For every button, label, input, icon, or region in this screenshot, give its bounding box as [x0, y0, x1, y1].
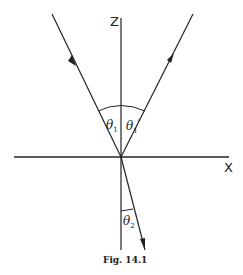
theta1-prime-label: θ1' [126, 118, 140, 135]
refracted-ray [121, 157, 145, 250]
figure-caption: Fig. 14.1 [103, 255, 147, 265]
theta1-prime-mark: ' [138, 118, 140, 126]
reflected-ray [121, 14, 193, 157]
theta2-subscript: 2 [130, 222, 134, 230]
angle-arc-theta2 [121, 209, 133, 211]
ray-diagram [0, 0, 243, 275]
theta2-label: θ2 [123, 214, 135, 230]
incident-ray [52, 14, 121, 157]
arrow-reflected-icon [167, 53, 174, 63]
theta1-subscript: 1 [113, 126, 117, 134]
arrow-refracted-icon [140, 238, 145, 250]
theta1-label: θ1 [106, 118, 118, 134]
theta1-prime-subscript: 1 [133, 127, 137, 135]
x-axis-label: X [224, 160, 233, 175]
z-axis-label: Z [110, 14, 119, 29]
